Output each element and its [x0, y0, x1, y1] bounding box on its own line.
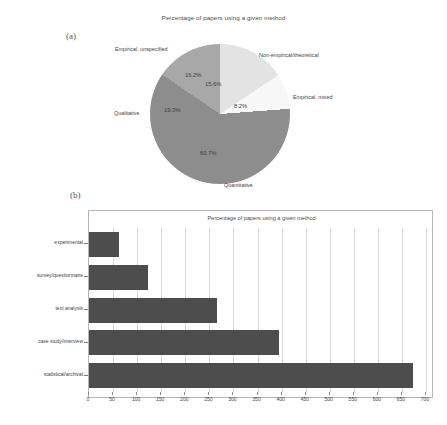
x-tick — [136, 392, 137, 395]
x-tick — [281, 392, 282, 395]
bar-fill — [89, 330, 279, 355]
bar-fill — [89, 232, 119, 257]
x-tick-label-550: 550 — [349, 396, 357, 402]
x-tick-label-200: 200 — [180, 396, 188, 402]
x-tick — [401, 392, 402, 395]
x-tick — [425, 392, 426, 395]
panel-b-bar-chart: Percentage of papers using a given metho… — [88, 210, 433, 398]
panel-a-label: (a) — [66, 31, 76, 41]
x-tick-label-650: 650 — [397, 396, 405, 402]
pie-label-non-empirical-theoretical: Non-empirical/theoretical — [259, 52, 319, 58]
x-tick — [329, 392, 330, 395]
x-tick — [88, 392, 89, 395]
bar-chart-category-labels: experimentalsurvey/questionnairetext ana… — [0, 210, 88, 398]
pie-label-qualitative: Qualitative — [114, 110, 139, 116]
bar-survey-questionnaire — [89, 265, 148, 290]
bar-fill — [89, 265, 148, 290]
x-tick-label-600: 600 — [373, 396, 381, 402]
bar-fill — [89, 363, 413, 388]
pie-value-empirical-unspecified: 16.2% — [185, 72, 201, 78]
category-label-survey-questionnaire: survey/questionnaire — [37, 272, 83, 278]
bar-text-analysis — [89, 298, 217, 323]
x-tick-label-150: 150 — [156, 396, 164, 402]
gridline — [426, 228, 427, 392]
pie-value-qualitative: 19.3% — [164, 107, 180, 113]
bar-fill — [89, 298, 217, 323]
x-tick — [305, 392, 306, 395]
panel-b-label: (b) — [70, 190, 81, 200]
category-label-statistical-archival: statistical/archival — [44, 371, 83, 377]
bar-statistical-archival — [89, 363, 413, 388]
bar-chart-plot-area — [89, 228, 426, 392]
category-label-experimental: experimental — [54, 239, 83, 245]
x-tick — [112, 392, 113, 395]
x-tick-label-350: 350 — [252, 396, 260, 402]
x-tick — [353, 392, 354, 395]
category-label-text-analysis: text analysis — [55, 305, 83, 311]
bar-chart-x-axis: 0501001502002503003504004505005506006507… — [88, 392, 433, 408]
x-tick — [208, 392, 209, 395]
x-tick-label-700: 700 — [421, 396, 429, 402]
x-tick — [232, 392, 233, 395]
panel-a-pie-chart: (a) Percentage of papers using a given m… — [0, 0, 447, 195]
pie-chart-title: Percentage of papers using a given metho… — [0, 14, 447, 21]
pie-label-quantitative: Quantitative — [224, 182, 253, 188]
pie-chart-graphic — [150, 44, 290, 184]
pie-slice-empirical-unspecified — [150, 44, 290, 184]
pie-label-empirical-unspecified: Empirical, unspecified — [115, 46, 167, 52]
x-tick — [160, 392, 161, 395]
x-tick-label-300: 300 — [228, 396, 236, 402]
x-tick-label-0: 0 — [87, 396, 90, 402]
x-tick — [377, 392, 378, 395]
category-label-case-study-interview: case study/interview — [38, 338, 83, 344]
x-tick-label-500: 500 — [325, 396, 333, 402]
pie-slices — [150, 44, 290, 184]
bar-chart-title: Percentage of papers using a given metho… — [89, 215, 434, 221]
pie-value-empirical-mixed: 8.2% — [234, 103, 247, 109]
x-tick-label-50: 50 — [109, 396, 115, 402]
x-tick-label-400: 400 — [276, 396, 284, 402]
bar-case-study-interview — [89, 330, 279, 355]
x-tick-label-250: 250 — [204, 396, 212, 402]
x-tick — [257, 392, 258, 395]
pie-value-non-empirical-theoretical: 15.6% — [205, 81, 221, 87]
x-tick — [184, 392, 185, 395]
x-tick-label-450: 450 — [300, 396, 308, 402]
pie-label-empirical-mixed: Empirical, mixed — [293, 94, 333, 100]
pie-value-quantitative: 60.7% — [200, 150, 216, 156]
x-tick-label-100: 100 — [132, 396, 140, 402]
bar-experimental — [89, 232, 119, 257]
